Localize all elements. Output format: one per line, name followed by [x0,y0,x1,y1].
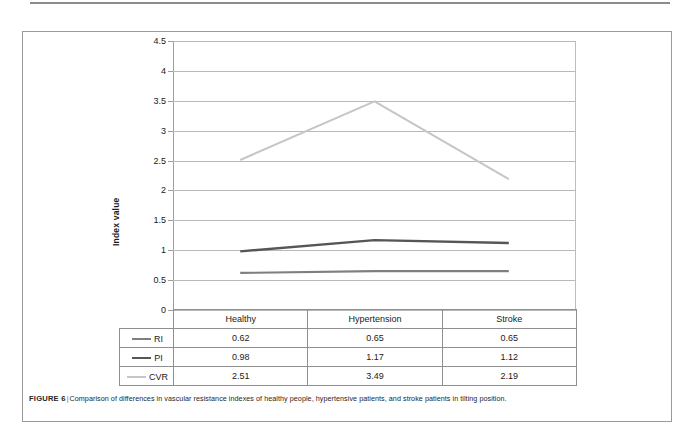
series-lines [173,41,576,310]
table-cell-ri-healthy: 0.62 [174,329,308,348]
table-header-row: Healthy Hypertension Stroke [120,310,577,329]
legend-label: CVR [149,372,168,382]
table-cell-pi-hypertension: 1.17 [308,348,442,367]
series-line-pi [240,240,509,251]
y-axis-tick-label: 1.5 [126,215,166,225]
figure-caption: FIGURE 6|Comparison of differences in va… [29,394,665,404]
caption-body: Comparison of differences in vascular re… [70,394,507,403]
legend-swatch-pi-icon [132,357,151,360]
figure-number: FIGURE 6 [29,394,66,403]
table-row: RI0.620.650.65 [120,329,577,348]
data-table-region: Healthy Hypertension Stroke RI0.620.650.… [119,309,576,386]
legend-label: RI [154,334,163,344]
page-top-rule [30,2,670,4]
table-corner-cell [120,310,174,329]
column-header-hypertension: Hypertension [308,310,442,329]
data-table: Healthy Hypertension Stroke RI0.620.650.… [119,309,577,386]
table-body: RI0.620.650.65PI0.981.171.12CVR2.513.492… [120,329,577,386]
table-cell-pi-stroke: 1.12 [442,348,576,367]
y-axis-tick-label: 0.5 [126,275,166,285]
table-row: CVR2.513.492.19 [120,367,577,386]
table-cell-cvr-stroke: 2.19 [442,367,576,386]
table-row: PI0.981.171.12 [120,348,577,367]
figure-page: Index value 00.511.522.533.544.5 Healthy… [0,0,693,431]
y-axis-tick-label: 3.5 [126,96,166,106]
series-line-cvr [240,101,509,179]
y-axis-tick-label: 3 [126,126,166,136]
table-cell-cvr-hypertension: 3.49 [308,367,442,386]
y-axis-tick-label: 1 [126,245,166,255]
y-axis-title: Index value [109,172,123,272]
table-cell-pi-healthy: 0.98 [174,348,308,367]
table-cell-cvr-healthy: 2.51 [174,367,308,386]
legend-label: PI [154,353,163,363]
table-cell-ri-stroke: 0.65 [442,329,576,348]
y-axis-tick-label: 2 [126,185,166,195]
y-axis-tick-label: 4 [126,66,166,76]
series-line-ri [240,271,509,273]
y-axis-tick-label: 2.5 [126,156,166,166]
table-cell-ri-hypertension: 0.65 [308,329,442,348]
legend-item-pi[interactable]: PI [120,348,174,367]
column-header-stroke: Stroke [442,310,576,329]
figure-frame: Index value 00.511.522.533.544.5 Healthy… [22,31,672,422]
legend-item-ri[interactable]: RI [120,329,174,348]
column-header-healthy: Healthy [174,310,308,329]
y-axis-tick-label: 4.5 [126,36,166,46]
legend-swatch-ri-icon [132,338,151,341]
legend-item-cvr[interactable]: CVR [120,367,174,386]
legend-swatch-cvr-icon [127,376,146,379]
